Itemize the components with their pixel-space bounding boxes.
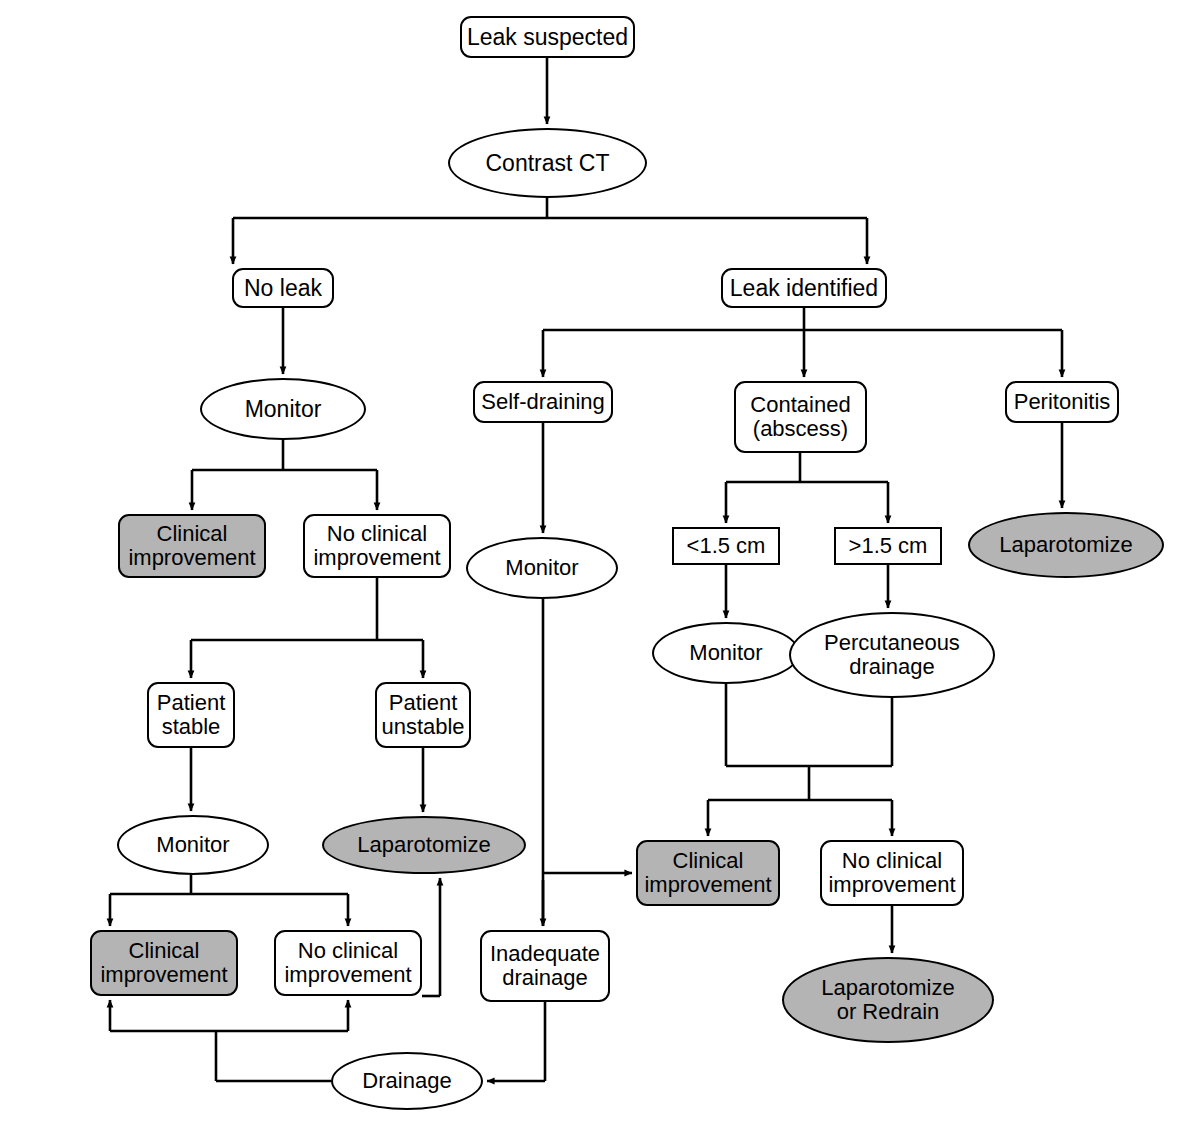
- node-laparotomize_unst[interactable]: Laparotomize: [322, 816, 526, 874]
- node-peritonitis[interactable]: Peritonitis: [1005, 381, 1119, 423]
- node-leak_suspected[interactable]: Leak suspected: [460, 16, 635, 58]
- node-monitor_abscess[interactable]: Monitor: [652, 622, 800, 684]
- node-contrast_ct[interactable]: Contrast CT: [448, 128, 647, 198]
- node-drainage[interactable]: Drainage: [331, 1052, 483, 1110]
- node-perc_drainage[interactable]: Percutaneous drainage: [789, 612, 995, 698]
- node-patient_stable[interactable]: Patient stable: [147, 682, 235, 748]
- node-clin_imp_3[interactable]: Clinical improvement: [90, 930, 238, 996]
- node-no_leak[interactable]: No leak: [232, 268, 334, 308]
- node-monitor_stable[interactable]: Monitor: [117, 815, 269, 875]
- node-monitor_selfdrain[interactable]: Monitor: [466, 537, 618, 599]
- node-no_clin_imp_1[interactable]: No clinical improvement: [303, 514, 451, 578]
- node-no_clin_imp_3[interactable]: No clinical improvement: [274, 930, 422, 996]
- node-clin_imp_2[interactable]: Clinical improvement: [636, 840, 780, 906]
- node-monitor_noleak[interactable]: Monitor: [200, 378, 366, 440]
- node-leak_identified[interactable]: Leak identified: [721, 268, 887, 308]
- node-no_clin_imp_2[interactable]: No clinical improvement: [820, 840, 964, 906]
- node-laparotomize_perit[interactable]: Laparotomize: [968, 512, 1164, 578]
- node-patient_unstable[interactable]: Patient unstable: [375, 682, 471, 748]
- node-contained_abscess[interactable]: Contained (abscess): [734, 381, 867, 453]
- node-gt_1_5cm[interactable]: >1.5 cm: [834, 527, 942, 565]
- node-laparotomize_redrain[interactable]: Laparotomize or Redrain: [782, 957, 994, 1043]
- node-inadequate_drainage[interactable]: Inadequate drainage: [480, 930, 610, 1002]
- node-self_draining[interactable]: Self-draining: [473, 381, 613, 423]
- node-clin_imp_1[interactable]: Clinical improvement: [118, 514, 266, 578]
- node-lt_1_5cm[interactable]: <1.5 cm: [672, 527, 780, 565]
- flowchart-canvas: Leak suspectedContrast CTNo leakLeak ide…: [0, 0, 1186, 1142]
